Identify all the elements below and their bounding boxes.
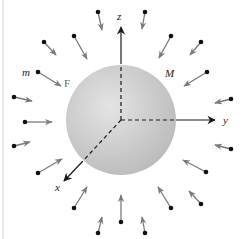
particle-dot-icon bbox=[205, 70, 210, 75]
force-arrow-icon bbox=[14, 142, 30, 146]
force-arrow-icon bbox=[158, 187, 171, 208]
x-axis-label: x bbox=[54, 181, 60, 193]
particle-dot-icon bbox=[72, 206, 77, 211]
particle-4 bbox=[42, 40, 56, 55]
particle-dot-icon bbox=[12, 95, 17, 100]
particle-17 bbox=[158, 187, 173, 210]
particle-8 bbox=[184, 70, 209, 86]
force-arrow-icon bbox=[74, 36, 87, 59]
particle-dot-icon bbox=[229, 97, 234, 102]
particle-18 bbox=[189, 191, 203, 206]
force-arrow-icon bbox=[189, 191, 201, 204]
particle-3 bbox=[72, 34, 87, 59]
particle-dot-icon bbox=[169, 34, 174, 39]
particle-16 bbox=[72, 187, 87, 210]
particle-14 bbox=[36, 159, 62, 175]
particle-dot-icon bbox=[42, 40, 47, 45]
particle-9 bbox=[12, 95, 32, 101]
particle-dot-icon bbox=[143, 10, 148, 15]
particle-dot-icon bbox=[36, 171, 41, 176]
force-arrow-icon bbox=[184, 72, 207, 86]
particle-10 bbox=[215, 97, 233, 103]
y-axis-label: y bbox=[222, 114, 228, 126]
force-arrow-icon bbox=[98, 12, 102, 30]
force-arrow-icon bbox=[38, 159, 62, 173]
x-axis-arrow bbox=[64, 162, 82, 181]
force-arrow-icon bbox=[74, 187, 87, 208]
force-arrow-icon bbox=[98, 217, 102, 233]
force-arrow-icon bbox=[190, 42, 201, 55]
particle-dot-icon bbox=[23, 120, 28, 125]
force-arrow-icon bbox=[159, 36, 171, 58]
z-axis-label: z bbox=[116, 10, 122, 22]
force-arrow-icon bbox=[38, 72, 61, 86]
particle-11 bbox=[23, 120, 52, 125]
force-arrow-icon bbox=[183, 160, 206, 172]
particle-dot-icon bbox=[143, 231, 148, 236]
particle-dot-icon bbox=[72, 34, 77, 39]
particle-6 bbox=[190, 40, 203, 55]
particle-15 bbox=[183, 160, 208, 174]
force-label: F bbox=[64, 77, 70, 89]
force-arrow-icon bbox=[142, 217, 145, 233]
particle-5 bbox=[159, 34, 173, 58]
particle-dot-icon bbox=[96, 10, 101, 15]
particle-dot-icon bbox=[169, 206, 174, 211]
force-arrow-icon bbox=[142, 12, 145, 29]
particle-dot-icon bbox=[96, 231, 101, 236]
particle-20 bbox=[119, 195, 124, 224]
particle-12 bbox=[12, 142, 30, 148]
particle-1 bbox=[96, 10, 102, 30]
particle-dot-icon bbox=[119, 220, 124, 225]
particle-2 bbox=[142, 10, 147, 29]
test-mass-label: m bbox=[22, 66, 30, 78]
particle-dot-icon bbox=[36, 70, 41, 75]
force-arrow-icon bbox=[215, 145, 231, 149]
particle-dot-icon bbox=[12, 144, 17, 149]
particle-21 bbox=[142, 217, 147, 235]
particle-dot-icon bbox=[199, 40, 204, 45]
particle-7 bbox=[36, 70, 61, 86]
particle-dot-icon bbox=[204, 170, 209, 175]
particle-dot-icon bbox=[199, 202, 204, 207]
gravity-sphere-diagram: zyx m F M bbox=[0, 0, 245, 239]
sphere-mass-label: M bbox=[164, 67, 175, 79]
force-arrow-icon bbox=[14, 97, 32, 101]
force-arrow-icon bbox=[215, 99, 231, 103]
force-arrow-icon bbox=[44, 42, 56, 55]
particle-dot-icon bbox=[229, 147, 234, 152]
particle-13 bbox=[215, 145, 233, 151]
particle-19 bbox=[96, 217, 102, 235]
